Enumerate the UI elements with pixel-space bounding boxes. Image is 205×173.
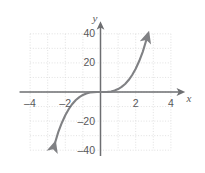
x-tick-label-neg2: –2 [59,98,71,109]
y-tick-label-neg40: –40 [78,145,96,156]
cubic-function-graph: –4–2244020–20–40 x y [0,0,205,173]
graph-canvas [0,0,205,173]
y-axis-label: y [93,13,98,24]
x-axis-label: x [187,93,192,104]
x-tick-label-2: 2 [133,98,139,109]
x-tick-label-neg4: –4 [24,98,36,109]
y-tick-label-20: 20 [84,57,96,68]
x-tick-label-4: 4 [168,98,174,109]
y-tick-label-40: 40 [84,28,96,39]
y-tick-label-neg20: –20 [78,116,96,127]
